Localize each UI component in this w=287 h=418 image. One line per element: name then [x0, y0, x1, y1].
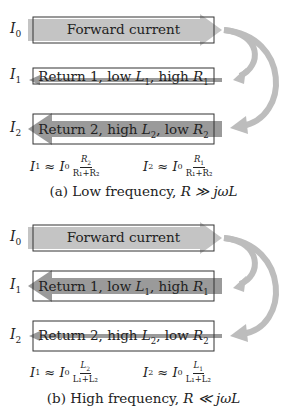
formula-i2: I2 ≈ I0 L1L₁+L₂	[143, 361, 212, 383]
return1-text: Return 1, low L1, high R1	[33, 68, 214, 87]
formula-i1: I1 ≈ I0 R2R₁+R₂	[30, 155, 100, 177]
curve-head-return1	[233, 68, 246, 84]
formula-i1: I1 ≈ I0 L2L₁+L₂	[30, 361, 99, 383]
fraction: R2R₁+R₂	[72, 155, 101, 177]
label-i1: I1	[10, 66, 21, 85]
return2-text: Return 2, high L2, low R2	[33, 121, 214, 140]
fraction: L1L₁+L₂	[185, 361, 212, 383]
curve-head-return2	[230, 116, 248, 134]
caption-b: (b) High frequency, R ≪ jωL	[0, 390, 287, 406]
panel-low-frequency: I0 I1 I2 Forward current Return 1, low L…	[0, 0, 287, 210]
forward-current-text: Forward current	[33, 229, 214, 245]
panel-high-frequency: I0 I1 I2 Forward current Return 1, low L…	[0, 210, 287, 418]
return1-text: Return 1, low L1, high R1	[33, 278, 214, 297]
fraction: L2L₁+L₂	[72, 361, 99, 383]
return2-text: Return 2, high L2, low R2	[33, 327, 214, 346]
label-i0: I0	[10, 228, 21, 247]
curve-head-return1	[233, 276, 246, 292]
forward-current-text: Forward current	[33, 21, 214, 37]
caption-a: (a) Low frequency, R ≫ jωL	[0, 183, 287, 199]
label-i2: I2	[10, 119, 21, 138]
formula-i2: I2 ≈ I0 R1R₁+R₂	[143, 155, 213, 177]
curve-head-return2	[230, 324, 248, 342]
label-i2: I2	[10, 326, 21, 345]
label-i0: I0	[10, 20, 21, 39]
label-i1: I1	[10, 276, 21, 295]
fraction: R1R₁+R₂	[185, 155, 214, 177]
